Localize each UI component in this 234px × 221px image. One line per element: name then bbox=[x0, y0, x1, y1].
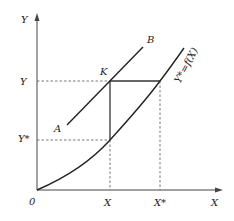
x-right-tick-label: X* bbox=[153, 197, 166, 208]
x-axis bbox=[37, 188, 223, 193]
y-lower-tick-label: Y* bbox=[18, 133, 30, 144]
y-upper-tick-label: Y bbox=[20, 76, 28, 87]
x-left-tick-label: X bbox=[103, 197, 112, 208]
point-k-label: K bbox=[99, 66, 108, 77]
point-a-label: A bbox=[53, 123, 61, 134]
point-b-label: B bbox=[146, 34, 154, 45]
curve-label: Y*=f(X) bbox=[172, 46, 200, 85]
x-axis-label: X bbox=[210, 197, 219, 208]
line-ab bbox=[67, 47, 143, 125]
y-axis-label: Y bbox=[21, 14, 29, 25]
origin-label: 0 bbox=[29, 196, 36, 207]
economic-diagram: Y X 0 Y Y* X X* A B K Y*=f(X) bbox=[0, 0, 234, 221]
y-axis bbox=[35, 13, 40, 190]
